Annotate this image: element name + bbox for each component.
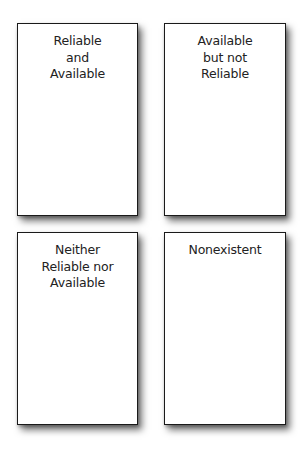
card-label: Nonexistent bbox=[165, 242, 285, 259]
card-label: Reliable and Available bbox=[18, 33, 137, 83]
card-label: Available but not Reliable bbox=[165, 33, 285, 83]
card-neither-reliable-nor-available: Neither Reliable nor Available bbox=[17, 232, 138, 425]
card-available-but-not-reliable: Available but not Reliable bbox=[164, 23, 286, 216]
card-label: Neither Reliable nor Available bbox=[18, 242, 137, 292]
card-nonexistent: Nonexistent bbox=[164, 232, 286, 425]
card-reliable-and-available: Reliable and Available bbox=[17, 23, 138, 216]
